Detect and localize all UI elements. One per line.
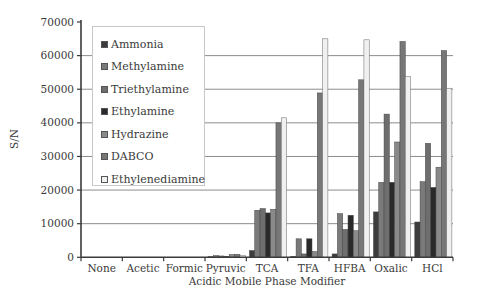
legend-swatch-icon <box>101 131 108 138</box>
legend-item-ethylamine: Ethylamine <box>101 101 204 124</box>
bar-series <box>208 39 452 257</box>
x-axis-title: Acidic Mobile Phase Modifier <box>188 275 347 287</box>
legend-item-triethylamine: Triethylamine <box>101 78 204 101</box>
bar <box>296 239 301 257</box>
legend-swatch-icon <box>101 86 108 93</box>
bar <box>255 210 260 257</box>
legend-item-methylamine: Methylamine <box>101 56 204 79</box>
bar <box>271 209 276 257</box>
bar <box>400 41 405 257</box>
bar <box>415 222 420 257</box>
bar <box>436 167 441 257</box>
bar <box>323 39 328 257</box>
x-tick-label: TFA <box>298 262 319 274</box>
y-axis-title: S/N <box>8 129 20 149</box>
bar <box>395 142 400 257</box>
legend-swatch-icon <box>101 108 108 115</box>
bar <box>405 76 410 257</box>
legend-item-ethylenediamine: Ethylenediamine <box>101 168 204 191</box>
bar <box>260 209 265 258</box>
bar <box>359 80 364 257</box>
bar <box>389 182 394 257</box>
y-tick-label: 0 <box>67 251 74 263</box>
x-axis-ticks: NoneAceticFormicPyruvicTCATFAHFBAOxalicH… <box>81 257 453 274</box>
bar <box>447 88 452 257</box>
bar <box>353 231 358 258</box>
y-tick-label: 30000 <box>41 150 74 162</box>
bar <box>249 251 254 258</box>
y-axis-ticks: 010000200003000040000500006000070000 <box>41 16 81 263</box>
bar <box>379 182 384 257</box>
legend-item-dabco: DABCO <box>101 146 204 169</box>
bar <box>364 40 369 257</box>
legend-label: Ethylamine <box>111 105 174 118</box>
legend-swatch-icon <box>101 153 108 160</box>
bar <box>265 213 270 257</box>
x-tick-label: Pyruvic <box>206 262 246 274</box>
legend-label: Hydrazine <box>111 128 169 141</box>
legend-label: DABCO <box>111 150 154 163</box>
y-tick-label: 40000 <box>41 116 74 128</box>
x-tick-label: HCl <box>422 262 443 274</box>
x-tick-label: Acetic <box>125 262 159 274</box>
bar <box>343 229 348 257</box>
legend-swatch-icon <box>101 63 108 70</box>
bar <box>373 212 378 257</box>
bar <box>276 123 281 257</box>
y-tick-label: 50000 <box>41 83 74 95</box>
bar <box>281 118 286 257</box>
legend-label: Methylamine <box>111 60 184 73</box>
bar <box>425 143 430 257</box>
legend-label: Ammonia <box>111 38 164 51</box>
x-tick-label: TCA <box>256 262 279 274</box>
bar <box>441 51 446 258</box>
bar <box>431 187 436 257</box>
bar <box>307 239 312 257</box>
bar <box>384 114 389 257</box>
legend-label: Triethylamine <box>111 83 189 96</box>
legend-item-hydrazine: Hydrazine <box>101 123 204 146</box>
y-tick-label: 10000 <box>41 217 74 229</box>
legend-swatch-icon <box>101 176 108 183</box>
legend: Ammonia Methylamine Triethylamine Ethyla… <box>92 26 205 186</box>
bar <box>317 93 322 257</box>
bar <box>312 252 317 258</box>
legend-label: Ethylenediamine <box>111 173 205 186</box>
bar <box>348 215 353 257</box>
legend-item-ammonia: Ammonia <box>101 33 204 56</box>
bar <box>420 182 425 258</box>
legend-swatch-icon <box>101 41 108 48</box>
y-tick-label: 70000 <box>41 16 74 28</box>
x-tick-label: Oxalic <box>374 262 408 274</box>
bar <box>337 214 342 258</box>
y-tick-label: 20000 <box>41 184 74 196</box>
bar-chart: 010000200003000040000500006000070000 Non… <box>0 0 478 303</box>
y-tick-label: 60000 <box>41 49 74 61</box>
x-tick-label: None <box>87 262 116 274</box>
x-tick-label: Formic <box>166 262 203 274</box>
x-tick-label: HFBA <box>334 262 366 274</box>
